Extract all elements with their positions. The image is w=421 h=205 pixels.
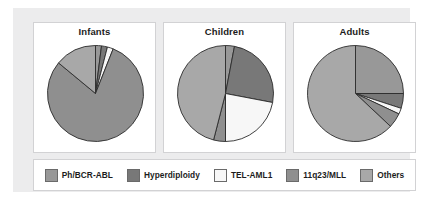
chart-title-children: Children bbox=[164, 26, 285, 37]
legend-item-hyperdiploidy: Hyperdiploidy bbox=[127, 169, 200, 182]
legend-swatch-icon bbox=[360, 169, 373, 182]
legend-swatch-icon bbox=[286, 169, 299, 182]
pie-svg bbox=[164, 39, 287, 152]
pie-chart-adults bbox=[294, 39, 415, 152]
chart-card-children: Children bbox=[163, 22, 286, 153]
legend-item-11q23-mll: 11q23/MLL bbox=[286, 169, 346, 182]
legend-item-others: Others bbox=[360, 169, 404, 182]
pie-svg bbox=[34, 39, 157, 152]
legend-swatch-icon bbox=[127, 169, 140, 182]
chart-title-infants: Infants bbox=[34, 26, 155, 37]
legend-swatch-icon bbox=[45, 169, 58, 182]
chart-card-adults: Adults bbox=[293, 22, 416, 153]
pie-chart-infants bbox=[34, 39, 155, 152]
pie-slice bbox=[356, 46, 404, 94]
chart-title-adults: Adults bbox=[294, 26, 415, 37]
figure-root: Infants Children Adults Ph/BCR-ABL Hyper… bbox=[0, 0, 421, 205]
legend: Ph/BCR-ABL Hyperdiploidy TEL-AML1 11q23/… bbox=[33, 159, 416, 191]
legend-label: TEL-AML1 bbox=[231, 170, 272, 180]
legend-swatch-icon bbox=[214, 169, 227, 182]
legend-item-tel-aml1: TEL-AML1 bbox=[214, 169, 272, 182]
figure-panel: Infants Children Adults Ph/BCR-ABL Hyper… bbox=[13, 8, 410, 192]
pie-chart-children bbox=[164, 39, 285, 152]
legend-item-ph-bcr-abl: Ph/BCR-ABL bbox=[45, 169, 113, 182]
legend-label: Others bbox=[377, 170, 404, 180]
charts-row: Infants Children Adults bbox=[33, 22, 416, 153]
legend-label: 11q23/MLL bbox=[303, 170, 346, 180]
pie-slice bbox=[226, 46, 274, 102]
pie-slice bbox=[226, 94, 273, 142]
legend-label: Hyperdiploidy bbox=[144, 170, 200, 180]
legend-label: Ph/BCR-ABL bbox=[62, 170, 113, 180]
chart-card-infants: Infants bbox=[33, 22, 156, 153]
pie-svg bbox=[294, 39, 417, 152]
